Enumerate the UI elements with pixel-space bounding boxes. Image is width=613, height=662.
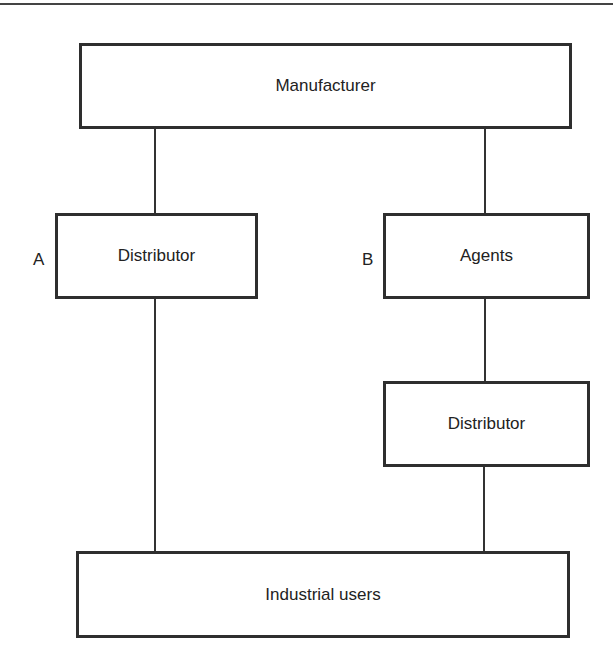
industrial-users-label: Industrial users xyxy=(265,585,380,605)
manufacturer-label: Manufacturer xyxy=(275,76,375,96)
connector-distributor-a-to-industrial-users xyxy=(154,297,156,552)
distributor-a-label: Distributor xyxy=(118,246,195,266)
distributor-b-label: Distributor xyxy=(448,414,525,434)
connector-manufacturer-to-distributor-a xyxy=(154,128,156,214)
industrial-users-box: Industrial users xyxy=(76,551,570,638)
channel-label-b: B xyxy=(362,250,373,270)
channel-label-a: A xyxy=(33,250,44,270)
top-rule xyxy=(0,3,613,5)
connector-agents-to-distributor-b xyxy=(484,297,486,383)
connector-manufacturer-to-agents xyxy=(484,128,486,214)
distributor-a-box: Distributor xyxy=(55,213,258,299)
agents-label: Agents xyxy=(460,246,513,266)
distributor-b-box: Distributor xyxy=(383,381,590,467)
connector-distributor-b-to-industrial-users xyxy=(483,466,485,552)
manufacturer-box: Manufacturer xyxy=(79,43,572,129)
agents-box: Agents xyxy=(383,213,590,299)
